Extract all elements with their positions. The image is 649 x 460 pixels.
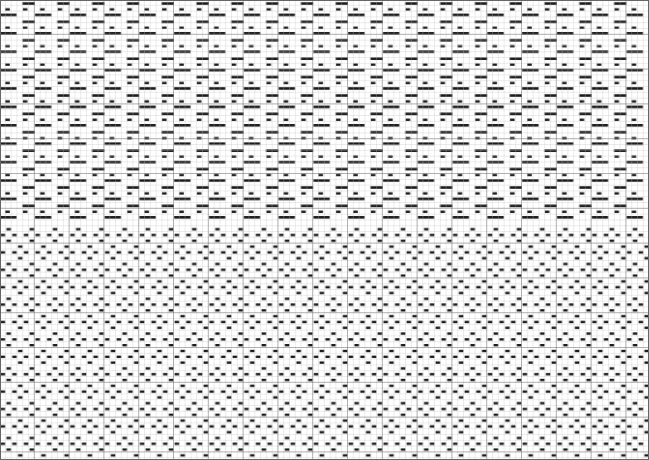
weaving-draft-grid bbox=[0, 0, 649, 460]
major-grid-lines bbox=[0, 0, 649, 460]
